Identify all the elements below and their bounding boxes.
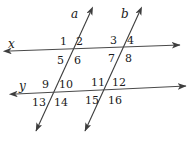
line-label-a: a xyxy=(71,8,78,20)
diagram-canvas xyxy=(0,0,194,143)
angle-label-8: 8 xyxy=(125,53,132,64)
line-a xyxy=(36,13,90,131)
angle-label-1: 1 xyxy=(60,36,67,47)
angle-label-15: 15 xyxy=(85,95,99,106)
line-label-y: y xyxy=(19,80,26,92)
angle-label-5: 5 xyxy=(57,55,64,66)
line-x xyxy=(10,45,180,51)
angle-label-2: 2 xyxy=(76,36,83,47)
angle-label-3: 3 xyxy=(110,35,117,46)
line-b xyxy=(85,13,139,131)
angle-label-12: 12 xyxy=(112,77,126,88)
angle-label-7: 7 xyxy=(108,53,115,64)
line-label-b: b xyxy=(121,8,129,20)
angle-label-9: 9 xyxy=(42,79,49,90)
angle-label-6: 6 xyxy=(74,55,81,66)
line-label-x: x xyxy=(8,38,15,50)
angle-label-10: 10 xyxy=(59,79,73,90)
angle-label-4: 4 xyxy=(127,35,134,46)
angle-label-11: 11 xyxy=(91,77,105,88)
geometry-diagram: a b x y 1 2 3 4 5 6 7 8 9 10 11 12 13 14… xyxy=(0,0,194,143)
angle-label-14: 14 xyxy=(54,97,68,108)
angle-label-16: 16 xyxy=(108,95,122,106)
angle-label-13: 13 xyxy=(32,97,46,108)
